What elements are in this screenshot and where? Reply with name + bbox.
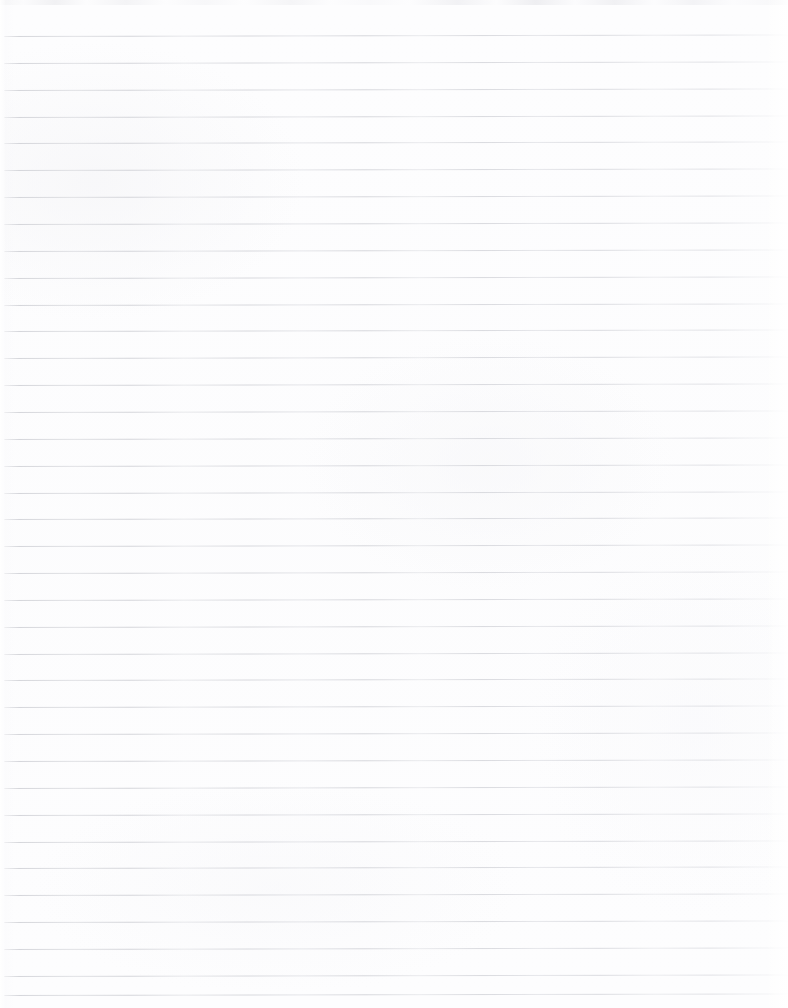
ruled-line [4,947,788,950]
ruled-line [4,142,788,145]
scanned-page [0,0,788,1008]
ruled-line [4,598,788,601]
ruled-line [4,921,788,924]
ruled-line [4,840,788,843]
ruled-line [4,518,788,521]
ruled-line [4,115,788,118]
ruled-line [4,652,788,655]
ruled-line [4,303,788,306]
ruled-line [4,34,788,37]
ruled-line [4,88,788,91]
ruled-line [4,410,788,413]
ruled-line [4,571,788,574]
ruled-line [4,249,788,252]
ruled-lines-layer [0,0,788,1008]
ruled-line [4,706,788,709]
ruled-line [4,169,788,172]
ruled-line [4,786,788,789]
ruled-line [4,491,788,494]
ruled-line [4,545,788,548]
ruled-line [4,61,788,64]
ruled-line [4,993,788,996]
ruled-line [4,330,788,333]
ruled-line [4,759,788,762]
ruled-line [4,437,788,440]
ruled-line [4,464,788,467]
ruled-line [4,625,788,628]
ruled-line [4,222,788,225]
ruled-line [4,384,788,387]
ruled-line [4,867,788,870]
ruled-line [4,894,788,897]
ruled-line [4,276,788,279]
ruled-line [4,974,788,977]
ruled-line [4,733,788,736]
ruled-line [4,196,788,199]
ruled-line [4,813,788,816]
ruled-line [4,679,788,682]
ruled-line [4,357,788,360]
